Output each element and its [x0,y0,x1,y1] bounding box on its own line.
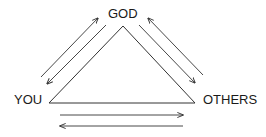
node-label-god: GOD [108,7,138,20]
arrow-others-to-god [148,18,203,75]
arrow-god-to-others [139,25,195,83]
relationship-triangle-diagram: GOD YOU OTHERS [0,0,266,137]
node-label-others: OTHERS [203,93,257,106]
arrow-you-to-god [41,18,98,77]
node-label-you: YOU [14,93,42,106]
triangle-shape [49,26,195,103]
arrow-god-to-you [47,25,106,84]
